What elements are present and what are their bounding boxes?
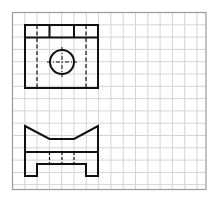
drawing-canvas <box>0 0 215 200</box>
front-view-hidden-lines <box>50 152 75 164</box>
grid-paper <box>13 13 207 190</box>
drawing-svg <box>0 0 215 200</box>
grid-border <box>13 13 207 190</box>
